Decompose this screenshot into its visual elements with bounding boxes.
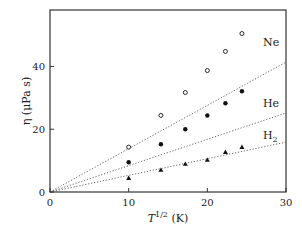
x-tick-label: 30: [280, 197, 293, 208]
y-tick-label: 0: [39, 187, 45, 198]
y-axis-label: η (μPa s): [20, 77, 33, 125]
fit-line-ne: [50, 62, 286, 192]
x-tick-label: 20: [201, 197, 214, 208]
x-axis-label: T1/2 (K): [148, 210, 189, 225]
x-tick-label: 0: [47, 197, 53, 208]
data-point-ne: [240, 32, 244, 36]
data-point-ne: [127, 145, 131, 149]
data-point-he: [240, 89, 244, 93]
series-label-h2: H2: [263, 129, 278, 144]
data-point-ne: [159, 113, 163, 117]
data-point-he: [159, 142, 163, 146]
data-point-he: [223, 101, 227, 105]
data-point-h2: [126, 176, 131, 180]
data-point-ne: [205, 69, 209, 73]
data-point-ne: [183, 91, 187, 95]
fit-line-h2: [50, 142, 286, 192]
series-label-he: He: [263, 97, 279, 110]
plot-frame: [50, 10, 286, 192]
data-point-h2: [223, 150, 228, 154]
y-tick-label: 20: [32, 124, 45, 135]
x-tick-label: 10: [122, 197, 135, 208]
data-point-he: [205, 113, 209, 117]
data-point-h2: [239, 145, 244, 149]
chart: 010203002040 Ne He H2 η (μPa s) T1/2 (K): [0, 0, 302, 238]
series-label-ne: Ne: [263, 36, 279, 49]
data-point-he: [183, 127, 187, 131]
plot-area: 010203002040: [32, 10, 292, 208]
y-tick-label: 40: [32, 61, 45, 72]
data-point-h2: [183, 161, 188, 165]
fit-line-he: [50, 113, 286, 192]
data-point-ne: [223, 49, 227, 53]
data-point-he: [126, 160, 130, 164]
